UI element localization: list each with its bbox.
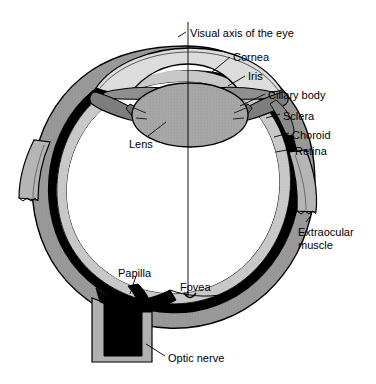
label-ciliary-body: Ciliary body	[268, 89, 325, 102]
label-fovea: Fovea	[180, 281, 211, 294]
label-visual-axis: Visual axis of the eye	[190, 27, 294, 40]
label-choroid: Choroid	[292, 129, 331, 142]
eye-anatomy-figure: Visual axis of the eye Cornea Iris Cilia…	[0, 0, 376, 384]
label-optic-nerve: Optic nerve	[168, 352, 224, 365]
label-retina: Retina	[295, 145, 327, 158]
eye-cross-section-svg	[0, 0, 376, 384]
label-cornea: Cornea	[233, 51, 269, 64]
label-iris: Iris	[248, 70, 263, 83]
label-sclera: Sclera	[283, 110, 314, 123]
label-papilla: Papilla	[118, 267, 151, 280]
leader-visual-axis	[178, 32, 186, 37]
label-extraocular-muscle: Extraocular muscle	[298, 226, 354, 252]
label-lens: Lens	[129, 138, 153, 151]
